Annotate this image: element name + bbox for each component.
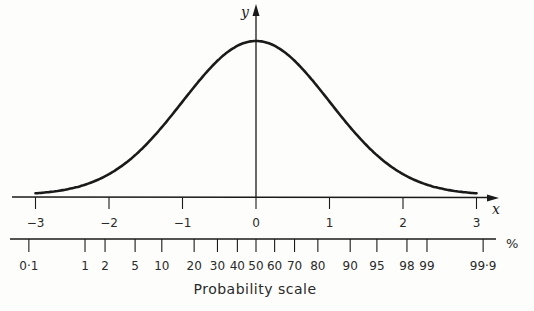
- probability-tick-label: 90: [343, 259, 358, 273]
- probability-tick-label: 40: [230, 259, 245, 273]
- probability-scale-label: Probability scale: [193, 281, 316, 297]
- probability-ticks: 0·112510203040506070809095989999·9: [19, 239, 496, 273]
- probability-tick-label: 80: [310, 259, 325, 273]
- probability-tick-label: 5: [131, 259, 139, 273]
- probability-tick-label: 98: [399, 259, 414, 273]
- probability-tick-label: 0·1: [19, 259, 38, 273]
- probability-tick-label: 30: [210, 259, 225, 273]
- x-axis: [12, 197, 492, 198]
- probability-unit: %: [506, 236, 518, 251]
- x-tick-label: −2: [100, 216, 118, 230]
- probability-tick-label: 70: [287, 259, 302, 273]
- x-tick-label: −3: [27, 216, 45, 230]
- probability-tick-label: 2: [101, 259, 109, 273]
- probability-tick-label: 60: [267, 259, 282, 273]
- probability-tick-label: 20: [187, 259, 202, 273]
- probability-tick-label: 1: [81, 259, 89, 273]
- normal-distribution-chart: y x −3−2−10123 % 0·112510203040506070809…: [0, 0, 534, 311]
- probability-tick-label: 99: [419, 259, 434, 273]
- probability-tick-label: 99·9: [470, 259, 497, 273]
- y-axis-arrow-icon: [253, 4, 260, 16]
- x-tick-label: 2: [399, 216, 407, 230]
- y-axis-label: y: [240, 4, 250, 20]
- probability-tick-label: 10: [154, 259, 169, 273]
- x-tick-label: 0: [252, 216, 260, 230]
- probability-tick-label: 95: [369, 259, 384, 273]
- x-axis-label: x: [492, 201, 500, 217]
- probability-tick-label: 50: [248, 259, 263, 273]
- x-ticks: −3−2−10123: [27, 197, 481, 230]
- x-tick-label: 1: [326, 216, 334, 230]
- x-tick-label: 3: [473, 216, 481, 230]
- x-tick-label: −1: [174, 216, 192, 230]
